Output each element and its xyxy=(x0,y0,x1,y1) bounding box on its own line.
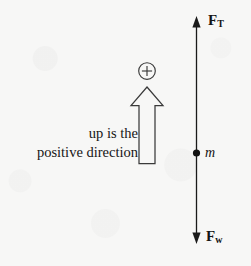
force-weight-label: Fw xyxy=(206,229,223,245)
free-body-diagram: FT Fw m up is the positive direction xyxy=(0,0,251,266)
force-tension-label: FT xyxy=(208,13,224,29)
caption-line-1: up is the xyxy=(89,125,138,141)
force-tension-symbol: F xyxy=(208,12,217,28)
weight-arrowhead-icon xyxy=(192,233,200,245)
force-weight-symbol: F xyxy=(206,228,215,244)
caption-line-2: positive direction xyxy=(37,144,138,160)
mass-label: m xyxy=(205,146,215,160)
mass-point-dot xyxy=(193,149,200,156)
force-weight-subscript: w xyxy=(215,234,222,245)
tension-arrowhead-icon xyxy=(192,16,200,28)
positive-direction-caption: up is the positive direction xyxy=(14,124,138,161)
force-tension-subscript: T xyxy=(217,18,224,29)
